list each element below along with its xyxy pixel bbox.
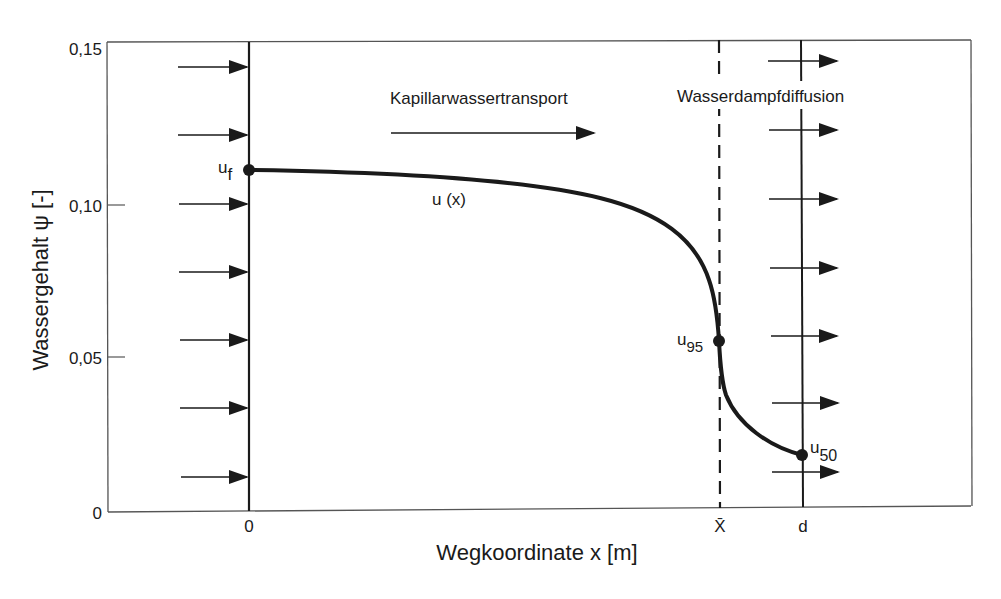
x-tick-label: d [798,517,807,536]
y-tick-label: 0 [93,504,102,523]
label-capillary-transport: Kapillarwassertransport [390,89,568,108]
boundary-line-d [801,40,803,507]
point-uf [243,164,255,176]
label-curve-u-x: u (x) [432,190,466,209]
x-tick-label: 0 [244,517,253,536]
label-u50: u50 [810,438,837,464]
diagram-canvas: 0,15 0,10 0,05 0 Wassergehalt ψ [-] 0 X̄… [0,0,1001,599]
boundary-line-xbar-dashed [719,40,720,508]
y-tick-label: 0,05 [69,349,102,368]
y-axis-ticks [108,205,125,357]
x-axis-title: Wegkoordinate x [m] [436,540,637,565]
inflow-arrows [178,67,247,477]
y-tick-label: 0,15 [69,40,102,59]
y-axis-title: Wassergehalt ψ [-] [28,189,53,370]
label-u95: u95 [677,330,703,355]
point-u50 [796,449,808,461]
point-u95 [713,335,725,347]
y-tick-label: 0,10 [69,197,102,216]
label-vapor-diffusion: Wasserdampfdiffusion [677,87,844,106]
x-tick-label: X̄ [714,517,725,536]
label-uf: uf [218,158,232,184]
plot-frame [107,40,972,512]
